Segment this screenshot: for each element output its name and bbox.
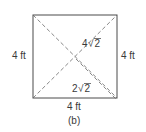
right-side-label: 4 ft (121, 50, 135, 61)
svg-text:2: 2 (85, 83, 91, 94)
full-diagonal-label: 4 √ 2 (82, 38, 101, 49)
sqrt-symbol: √ (78, 83, 84, 94)
square-diagonal-diagram: 4 √ 2 2 √ 2 4 ft 4 ft 4 ft (b) (0, 0, 146, 132)
sqrt-symbol: √ (88, 38, 94, 49)
figure-caption: (b) (68, 115, 80, 126)
bottom-side-label: 4 ft (67, 101, 81, 112)
half-diagonal-label: 2 √ 2 (72, 83, 91, 94)
left-side-label: 4 ft (12, 50, 26, 61)
svg-text:2: 2 (95, 38, 101, 49)
